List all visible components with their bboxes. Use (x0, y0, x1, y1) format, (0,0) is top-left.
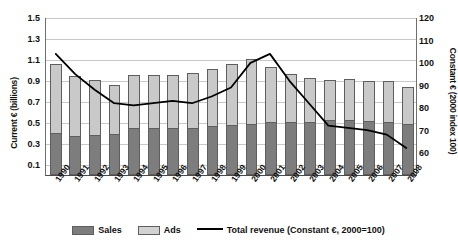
x-axis-tick-labels: 1990199119921993199419951996199719981999… (45, 178, 417, 218)
y-axis-left-tick-label: 1.3 (14, 34, 40, 44)
legend-item[interactable]: Total revenue (Constant €, 2000=100) (197, 225, 385, 235)
y-axis-right-tick-label: 80 (419, 103, 445, 113)
legend-item[interactable]: Sales (72, 225, 122, 235)
legend-swatch (138, 226, 160, 235)
y-axis-left-tick-label: 0.9 (14, 76, 40, 86)
y-axis-right-tick-label: 60 (419, 148, 445, 158)
y-axis-right-tick-label: 110 (419, 36, 445, 46)
y-axis-left-tick-label: 0.3 (14, 139, 40, 149)
plot-area (45, 18, 417, 176)
y-axis-right-tick-label: 90 (419, 81, 445, 91)
y-axis-right-tick-label: 70 (419, 126, 445, 136)
legend-label: Total revenue (Constant €, 2000=100) (227, 225, 385, 235)
y-axis-right-title: Constant € (2000 index 100) (448, 31, 458, 171)
legend-label: Ads (164, 225, 181, 235)
chart-legend: SalesAdsTotal revenue (Constant €, 2000=… (0, 219, 457, 241)
y-axis-right-ticks: 12011010090807060 (419, 0, 445, 245)
y-axis-left-tick-label: 1.1 (14, 55, 40, 65)
y-axis-left-tick-label: 0.7 (14, 97, 40, 107)
y-axis-left-ticks: 1.51.31.10.90.70.50.30.1 (14, 0, 40, 245)
y-axis-left-tick-label: 0.5 (14, 118, 40, 128)
y-axis-right-tick-label: 100 (419, 58, 445, 68)
legend-label: Sales (98, 225, 122, 235)
y-axis-left-tick-label: 1.5 (14, 13, 40, 23)
legend-item[interactable]: Ads (138, 225, 181, 235)
legend-swatch (72, 226, 94, 235)
y-axis-left-tick-label: 0.1 (14, 160, 40, 170)
total-revenue-line-series (46, 18, 416, 175)
y-axis-right-tick-label: 120 (419, 13, 445, 23)
legend-line-marker (197, 228, 223, 230)
